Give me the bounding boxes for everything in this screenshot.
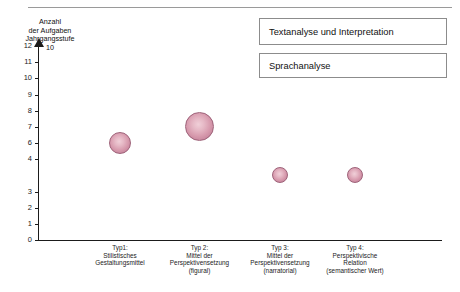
- y-axis-tick-mark: [35, 208, 38, 209]
- y-axis-tick-mark: [35, 127, 38, 128]
- y-axis-tick-mark: [35, 224, 38, 225]
- bubble-data-point[interactable]: [185, 112, 214, 141]
- y-axis-tick-label: 12: [10, 42, 32, 50]
- y-axis-tick-label: 9: [10, 91, 32, 99]
- y-axis-tick-label: 1: [10, 220, 32, 228]
- x-axis-category-line: (semantischer Wert): [307, 267, 403, 275]
- y-axis-tick-mark: [35, 62, 38, 63]
- x-axis-line: [38, 240, 442, 241]
- top-divider: [28, 7, 452, 8]
- x-axis-category-line: Relation: [307, 259, 403, 267]
- y-axis-tick-mark: [35, 240, 38, 241]
- y-axis-tick-mark: [35, 143, 38, 144]
- y-axis-tick-mark: [35, 159, 38, 160]
- legend-label: Sprachanalyse: [269, 61, 331, 71]
- chart-canvas: Anzahl der Aufgaben Jahrgangsstufe 10 12…: [0, 0, 460, 292]
- y-axis-tick-mark: [35, 192, 38, 193]
- x-axis-category-line: Perspektivische: [307, 252, 403, 260]
- legend-item-textanalyse[interactable]: Textanalyse und Interpretation: [259, 18, 447, 45]
- y-axis-tick-mark: [35, 46, 38, 47]
- bubble-data-point[interactable]: [347, 167, 363, 183]
- y-axis-tick-mark: [35, 78, 38, 79]
- y-axis-tick-label: 0: [10, 236, 32, 244]
- y-axis-tick-label: 6: [10, 139, 32, 147]
- legend-label: Textanalyse und Interpretation: [269, 27, 394, 37]
- y-axis-tick-mark: [35, 95, 38, 96]
- y-axis-tick-label: 11: [10, 58, 32, 66]
- bubble-data-point[interactable]: [272, 167, 288, 183]
- y-axis-tick-label: 7: [10, 123, 32, 131]
- y-axis-tick-label: 3: [10, 188, 32, 196]
- y-axis-tick-mark: [35, 111, 38, 112]
- legend-item-sprachanalyse[interactable]: Sprachanalyse: [259, 53, 447, 78]
- y-axis-line: [38, 46, 39, 241]
- x-axis-category-line: Typ 4:: [307, 244, 403, 252]
- bubble-data-point[interactable]: [109, 132, 131, 154]
- y-axis-tick-label: 4: [10, 155, 32, 163]
- y-axis-tick-label: 8: [10, 107, 32, 115]
- y-axis-tick-label: 2: [10, 204, 32, 212]
- x-axis-category-label: Typ 4:PerspektivischeRelation(semantisch…: [307, 244, 403, 274]
- y-axis-tick-label: 10: [10, 74, 32, 82]
